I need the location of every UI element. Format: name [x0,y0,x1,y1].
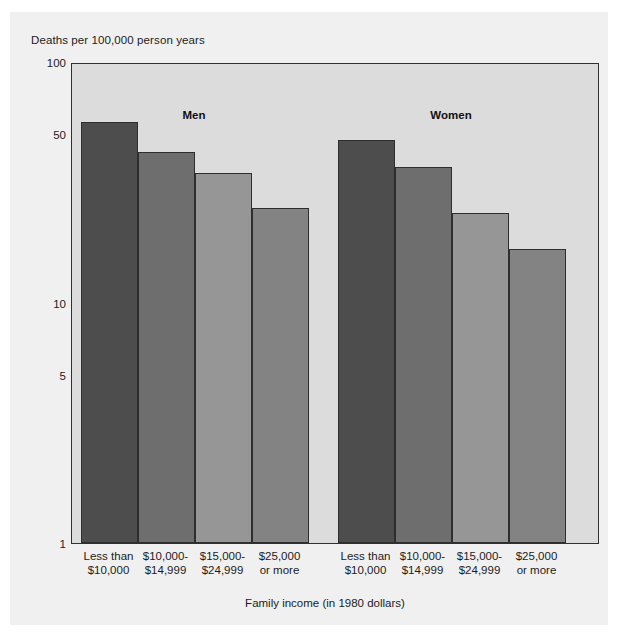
category-label-line2: $10,000 [84,563,134,577]
category-label-line1: Less than [341,549,391,563]
bar-women-4 [509,249,566,543]
category-label-5: Less than$10,000 [341,549,391,577]
y-tick-label-5: 5 [20,370,66,382]
category-label-line1: $10,000- [400,549,445,563]
y-tick-label-10: 10 [20,298,66,310]
category-label-3: $15,000-$24,999 [200,549,245,577]
bar-men-4 [252,208,309,543]
category-label-line2: $10,000 [341,563,391,577]
group-label-men: Men [183,109,206,121]
category-label-line1: $15,000- [457,549,502,563]
y-tick-label-50: 50 [20,129,66,141]
category-label-7: $15,000-$24,999 [457,549,502,577]
x-axis-title: Family income (in 1980 dollars) [245,597,405,609]
bar-women-2 [395,167,452,543]
category-label-6: $10,000-$14,999 [400,549,445,577]
category-label-line1: $15,000- [200,549,245,563]
category-label-line1: Less than [84,549,134,563]
bar-men-3 [195,173,252,543]
bar-men-2 [138,152,195,543]
category-label-line2: or more [259,563,301,577]
category-label-line2: $24,999 [200,563,245,577]
chart-figure: Deaths per 100,000 person years 10050105… [10,12,608,625]
bar-men-1 [81,122,138,543]
category-label-1: Less than$10,000 [84,549,134,577]
category-label-4: $25,000or more [259,549,301,577]
category-label-line2: $24,999 [457,563,502,577]
category-label-line1: $25,000 [259,549,301,563]
category-label-line1: $25,000 [516,549,558,563]
category-label-line2: $14,999 [143,563,188,577]
category-label-line1: $10,000- [143,549,188,563]
category-label-8: $25,000or more [516,549,558,577]
category-label-line2: or more [516,563,558,577]
category-label-2: $10,000-$14,999 [143,549,188,577]
bar-women-1 [338,140,395,543]
category-label-line2: $14,999 [400,563,445,577]
y-tick-label-100: 100 [20,57,66,69]
y-tick-label-1: 1 [20,538,66,550]
y-axis-tick-labels: 100501051 [10,12,66,625]
bars-layer [72,64,598,543]
plot-area [71,63,599,544]
bar-women-3 [452,213,509,543]
group-label-women: Women [430,109,471,121]
